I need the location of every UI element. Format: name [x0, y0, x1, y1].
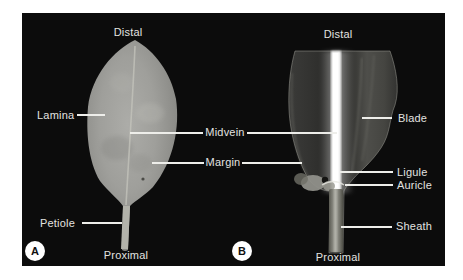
sheath-label: Sheath [396, 220, 432, 232]
leaf-a-mottle [136, 103, 164, 123]
lamina-label: Lamina [37, 109, 74, 121]
blade-label: Blade [398, 112, 427, 124]
midvein-leader-line-right [247, 132, 337, 134]
leaf-a-mottle [110, 73, 134, 93]
leaf-a-mottle [128, 154, 152, 172]
distal-label-a: Distal [114, 26, 143, 38]
panel-b-marker: B [232, 241, 252, 261]
margin-label: Margin [206, 156, 241, 168]
leaf-a-speck [141, 177, 144, 180]
proximal-label-a: Proximal [104, 249, 148, 261]
margin-leader-line-right [242, 162, 302, 164]
midvein-leader-line-left [130, 132, 203, 134]
midrib-core [333, 53, 338, 189]
proximal-label-b: Proximal [316, 251, 360, 263]
blade-leader-line [362, 117, 392, 119]
sheath-leader-line [341, 226, 392, 228]
midvein-label: Midvein [205, 126, 244, 138]
petiole-leader-line [82, 222, 122, 224]
margin-leader-line-left [152, 162, 204, 164]
sheath-highlight [334, 189, 337, 252]
auricle-label: Auricle [397, 179, 432, 191]
leaf-b-photo [289, 51, 397, 253]
figure-page: Distal Lamina Petiole Proximal A Midvein… [0, 0, 463, 280]
leaf-photographs [22, 13, 445, 266]
photo-panel [22, 13, 445, 266]
ligule-leader-line [340, 171, 393, 173]
leaf-a-petiole [121, 206, 130, 249]
auricle-leader-line [345, 184, 393, 186]
leaf-a-photo [87, 40, 177, 251]
petiole-label: Petiole [40, 217, 75, 229]
auricle-lobe [294, 173, 308, 185]
lamina-leader-line [77, 114, 105, 116]
panel-a-marker: A [25, 241, 45, 261]
distal-label-b: Distal [324, 28, 353, 40]
ligule-label: Ligule [397, 166, 428, 178]
